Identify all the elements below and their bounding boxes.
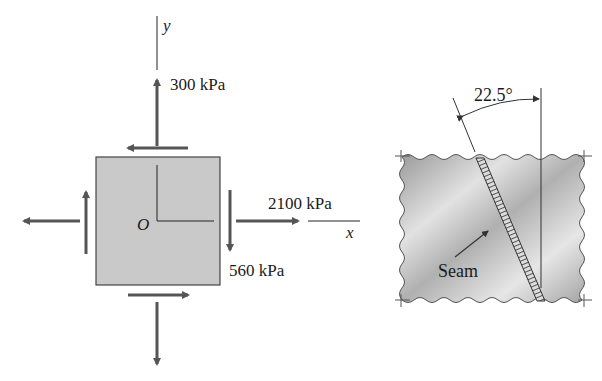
diagram-canvas: y 300 kPa 2100 kPa x O 560 kPa (0, 0, 602, 381)
x-axis-label: x (345, 223, 354, 242)
tau-label: 560 kPa (229, 261, 285, 280)
seam-plate-figure: 22.5° Seam (395, 85, 592, 307)
sigma-y-label: 300 kPa (170, 75, 226, 94)
seam-label: Seam (438, 261, 478, 281)
stress-element-figure: y 300 kPa 2100 kPa x O 560 kPa (24, 16, 360, 364)
angle-label: 22.5° (474, 85, 513, 105)
origin-label: O (137, 215, 149, 234)
sigma-x-label: 2100 kPa (268, 194, 332, 213)
seam-extension-line (453, 98, 475, 152)
y-axis-label: y (161, 16, 171, 35)
diagram-svg: y 300 kPa 2100 kPa x O 560 kPa (0, 0, 602, 381)
